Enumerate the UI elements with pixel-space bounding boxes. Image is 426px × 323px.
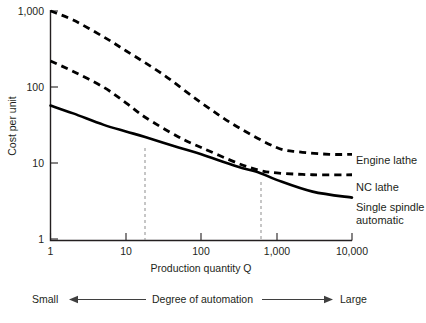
automation-label-large: Large <box>340 293 367 305</box>
y-tick-labels: 1,000 100 10 1 <box>18 5 44 245</box>
breakeven-guides <box>145 148 261 240</box>
x-tick-label-1: 1 <box>48 245 54 257</box>
automation-arrow-left-head <box>69 296 78 303</box>
y-axis-title: Cost per unit <box>6 96 18 156</box>
legend-label-automatic: automatic <box>356 214 404 226</box>
axis-lines <box>51 10 353 241</box>
cost-per-unit-chart: 1,000 100 10 1 1 10 100 1,000 10,000 Cos… <box>0 0 426 323</box>
legend-group: Engine lathe NC lathe Single spindle aut… <box>356 154 425 226</box>
x-tick-label-1000: 1,000 <box>264 245 290 257</box>
series-group <box>51 11 353 198</box>
x-tick-label-100: 100 <box>192 245 210 257</box>
legend-label-single-spindle: Single spindle <box>356 201 425 213</box>
x-tick-marks <box>51 233 353 241</box>
legend-label-engine-lathe: Engine lathe <box>356 154 417 166</box>
x-tick-label-10: 10 <box>120 245 132 257</box>
x-tick-label-10000: 10,000 <box>336 245 368 257</box>
degree-of-automation-scale: Small Degree of automation Large <box>32 293 367 305</box>
series-nc-lathe <box>51 61 353 175</box>
y-tick-marks <box>51 11 59 239</box>
series-single-spindle-automatic <box>51 106 353 198</box>
figure-container: 1,000 100 10 1 1 10 100 1,000 10,000 Cos… <box>0 0 426 323</box>
automation-label-small: Small <box>32 293 58 305</box>
automation-arrow-right-head <box>324 296 333 303</box>
y-tick-label-100: 100 <box>26 81 44 93</box>
y-tick-label-1: 1 <box>38 233 44 245</box>
x-axis-title: Production quantity Q <box>151 262 252 274</box>
legend-label-nc-lathe: NC lathe <box>356 181 399 193</box>
axes-group <box>51 10 353 241</box>
x-tick-labels: 1 10 100 1,000 10,000 <box>48 245 369 257</box>
automation-label-center: Degree of automation <box>152 293 253 305</box>
y-tick-label-10: 10 <box>32 157 44 169</box>
y-tick-label-1000: 1,000 <box>18 5 44 17</box>
